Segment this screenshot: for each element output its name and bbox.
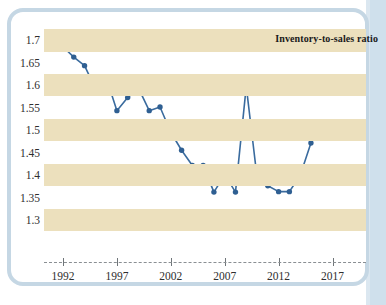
chart-title: Inventory-to-sales ratio: [275, 33, 378, 44]
y-axis-tick-label: 1.65: [6, 57, 40, 69]
background-band: [44, 119, 366, 142]
data-point-marker: 2006: 1.362: [211, 189, 216, 194]
data-point-marker: 2001: 1.551: [157, 104, 162, 109]
data-point-marker: 2013: 1.363: [287, 189, 292, 194]
y-axis-tick-label: 1.7: [6, 34, 40, 46]
figure-container: 1992: 1.6851993: 1.6621994: 1.6431995: 1…: [0, 0, 386, 305]
data-point-marker: 1997: 1.543: [114, 108, 119, 113]
data-point-marker: 2000: 1.543: [147, 108, 152, 113]
x-axis-tick-label: 2002: [151, 270, 191, 282]
background-band: [44, 74, 366, 97]
plot-area: 1992: 1.6851993: 1.6621994: 1.6431995: 1…: [44, 29, 366, 263]
data-point-marker: 2003: 1.455: [179, 148, 184, 153]
background-band: [44, 209, 366, 232]
data-point-marker: 2012: 1.363: [276, 189, 281, 194]
x-axis-line: [44, 262, 366, 265]
y-axis-tick-label: 1.5: [6, 124, 40, 136]
y-axis-tick-label: 1.35: [6, 192, 40, 204]
x-axis-tick-label: 2017: [313, 270, 353, 282]
y-axis-tick-label: 1.55: [6, 102, 40, 114]
y-axis-tick-label: 1.45: [6, 147, 40, 159]
data-point-marker: 1993: 1.662: [71, 54, 76, 59]
x-axis-tick-label: 2007: [205, 270, 245, 282]
background-band: [44, 164, 366, 187]
page-edge-strip-inner: [370, 0, 386, 305]
x-axis-tick-label: 1992: [43, 270, 83, 282]
y-axis-tick-label: 1.3: [6, 214, 40, 226]
y-axis-tick-label: 1.6: [6, 79, 40, 91]
data-point-marker: 1994: 1.643: [82, 63, 87, 68]
x-axis-tick-label: 1997: [97, 270, 137, 282]
x-axis-tick-label: 2012: [259, 270, 299, 282]
data-point-marker: 2008: 1.362: [233, 189, 238, 194]
y-axis-tick-label: 1.4: [6, 169, 40, 181]
